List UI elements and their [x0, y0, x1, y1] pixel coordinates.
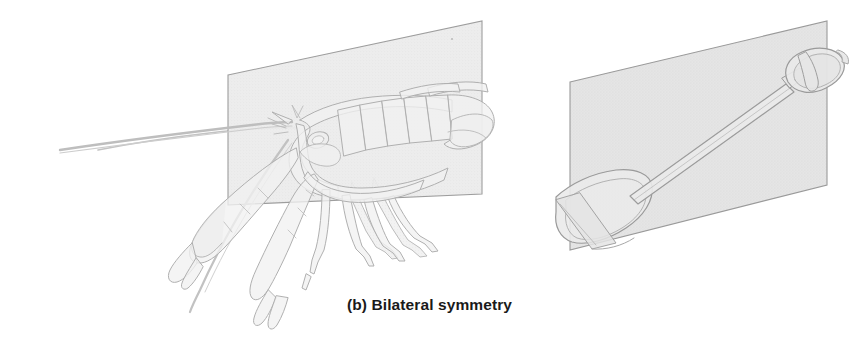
shovel-panel: [556, 21, 849, 250]
bilateral-symmetry-figure: (b) Bilateral symmetry: [0, 0, 859, 354]
caption-text: (b) Bilateral symmetry: [347, 296, 512, 314]
lobster-panel: [60, 21, 494, 329]
caption: (b) Bilateral symmetry: [0, 296, 859, 314]
